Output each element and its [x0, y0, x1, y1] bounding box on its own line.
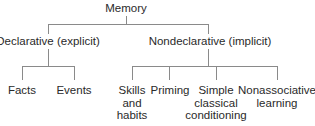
node-line: Nonassociative: [238, 84, 315, 97]
node-line: and: [117, 97, 148, 110]
node-nondeclarative: Nondeclarative (implicit): [149, 35, 272, 48]
node-declarative: Declarative (explicit): [0, 35, 100, 48]
connector-facts-drop: [22, 66, 23, 80]
node-skills-and-habits: Skills and habits: [117, 84, 148, 122]
node-line: habits: [117, 109, 148, 122]
connector-simple-drop: [216, 66, 217, 80]
node-line: Skills: [117, 84, 148, 97]
node-nonassociative-learning: Nonassociative learning: [238, 84, 315, 109]
connector-nondeclarative-stem: [208, 49, 209, 66]
connector-declarative-stem: [48, 49, 49, 66]
connector-priming-drop: [169, 66, 170, 80]
connector-root-bar: [48, 24, 209, 25]
connector-nondeclarative-bar: [132, 66, 278, 67]
connector-declarative-drop: [48, 24, 49, 34]
node-facts: Facts: [8, 84, 36, 97]
node-events: Events: [56, 84, 91, 97]
node-line: learning: [238, 97, 315, 110]
connector-skills-drop: [132, 66, 133, 80]
connector-declarative-bar: [22, 66, 75, 67]
node-memory: Memory: [105, 2, 147, 15]
node-priming: Priming: [151, 84, 190, 97]
node-line: Priming: [151, 84, 190, 97]
node-line: conditioning: [185, 109, 246, 122]
connector-events-drop: [74, 66, 75, 80]
connector-nondeclarative-drop: [208, 24, 209, 34]
connector-nonassociative-drop: [277, 66, 278, 80]
